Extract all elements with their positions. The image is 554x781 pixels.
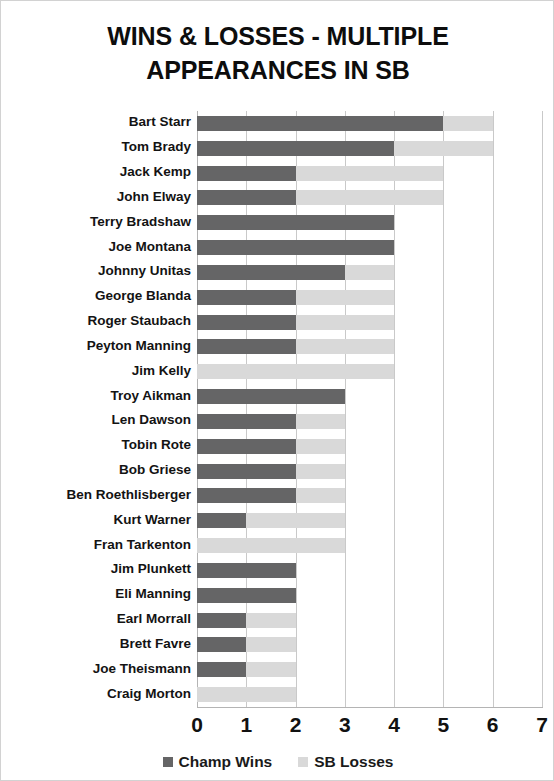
- bar-row[interactable]: [197, 513, 542, 528]
- category-label: Eli Manning: [7, 586, 197, 601]
- category-label: Tobin Rote: [7, 437, 197, 452]
- bar-segment-champ-wins[interactable]: [197, 315, 296, 330]
- x-tick-label: 6: [473, 713, 513, 737]
- bar-row[interactable]: [197, 265, 542, 280]
- bar-row[interactable]: [197, 116, 542, 131]
- bar-row[interactable]: [197, 166, 542, 181]
- bar-segment-champ-wins[interactable]: [197, 166, 296, 181]
- bar-segment-champ-wins[interactable]: [197, 116, 443, 131]
- bar-segment-sb-losses[interactable]: [246, 613, 295, 628]
- bar-segment-champ-wins[interactable]: [197, 265, 345, 280]
- x-tick-label: 1: [226, 713, 266, 737]
- bar-row[interactable]: [197, 414, 542, 429]
- bar-segment-sb-losses[interactable]: [296, 290, 395, 305]
- category-label: John Elway: [7, 189, 197, 204]
- category-label: Jim Kelly: [7, 363, 197, 378]
- bar-segment-sb-losses[interactable]: [345, 265, 394, 280]
- bar-segment-champ-wins[interactable]: [197, 141, 394, 156]
- category-label: Craig Morton: [7, 686, 197, 701]
- category-label: Peyton Manning: [7, 338, 197, 353]
- bar-row[interactable]: [197, 215, 542, 230]
- bar-segment-champ-wins[interactable]: [197, 613, 246, 628]
- bar-segment-sb-losses[interactable]: [296, 439, 345, 454]
- x-tick-label: 4: [374, 713, 414, 737]
- bar-row[interactable]: [197, 315, 542, 330]
- bar-row[interactable]: [197, 588, 542, 603]
- bar-segment-sb-losses[interactable]: [246, 513, 345, 528]
- bar-segment-champ-wins[interactable]: [197, 588, 296, 603]
- bar-segment-champ-wins[interactable]: [197, 439, 296, 454]
- bar-segment-sb-losses[interactable]: [246, 662, 295, 677]
- bar-segment-champ-wins[interactable]: [197, 414, 296, 429]
- chart-legend: Champ WinsSB Losses: [1, 753, 554, 771]
- x-tick-label: 0: [177, 713, 217, 737]
- category-label: Joe Montana: [7, 239, 197, 254]
- bar-row[interactable]: [197, 439, 542, 454]
- category-label: Brett Favre: [7, 636, 197, 651]
- legend-swatch-icon: [163, 757, 173, 767]
- category-label: Fran Tarkenton: [7, 537, 197, 552]
- bar-segment-sb-losses[interactable]: [246, 637, 295, 652]
- bar-row[interactable]: [197, 464, 542, 479]
- bar-row[interactable]: [197, 637, 542, 652]
- bar-segment-champ-wins[interactable]: [197, 339, 296, 354]
- gridline-7: [542, 111, 543, 707]
- bar-segment-sb-losses[interactable]: [394, 141, 493, 156]
- bar-row[interactable]: [197, 488, 542, 503]
- bar-segment-sb-losses[interactable]: [296, 166, 444, 181]
- bar-segment-sb-losses[interactable]: [296, 414, 345, 429]
- category-label: Kurt Warner: [7, 512, 197, 527]
- bar-segment-champ-wins[interactable]: [197, 513, 246, 528]
- bar-segment-sb-losses[interactable]: [443, 116, 492, 131]
- bar-row[interactable]: [197, 662, 542, 677]
- x-axis-line: [197, 707, 543, 708]
- plot-area: [197, 111, 542, 707]
- bar-segment-champ-wins[interactable]: [197, 464, 296, 479]
- legend-label: Champ Wins: [179, 753, 273, 771]
- bar-row[interactable]: [197, 364, 542, 379]
- bar-row[interactable]: [197, 389, 542, 404]
- bar-segment-sb-losses[interactable]: [296, 488, 345, 503]
- bar-segment-champ-wins[interactable]: [197, 563, 296, 578]
- bar-segment-champ-wins[interactable]: [197, 240, 394, 255]
- bar-segment-champ-wins[interactable]: [197, 389, 345, 404]
- bar-segment-sb-losses[interactable]: [296, 190, 444, 205]
- x-axis-tick-labels: 01234567: [1, 713, 554, 747]
- category-label: Bob Griese: [7, 462, 197, 477]
- bar-row[interactable]: [197, 339, 542, 354]
- bar-segment-champ-wins[interactable]: [197, 488, 296, 503]
- bar-row[interactable]: [197, 290, 542, 305]
- category-label: Jack Kemp: [7, 164, 197, 179]
- category-label: George Blanda: [7, 288, 197, 303]
- x-tick-label: 7: [522, 713, 554, 737]
- bar-segment-sb-losses[interactable]: [197, 538, 345, 553]
- bar-segment-sb-losses[interactable]: [296, 464, 345, 479]
- category-axis: Bart StarrTom BradyJack KempJohn ElwayTe…: [1, 111, 197, 707]
- chart-title-line-2: APPEARANCES IN SB: [31, 53, 525, 87]
- bar-segment-sb-losses[interactable]: [197, 364, 394, 379]
- category-label: Bart Starr: [7, 114, 197, 129]
- bar-row[interactable]: [197, 687, 542, 702]
- bar-segment-sb-losses[interactable]: [296, 315, 395, 330]
- chart-title-line-1: WINS & LOSSES - MULTIPLE: [31, 19, 525, 53]
- bar-segment-champ-wins[interactable]: [197, 290, 296, 305]
- legend-swatch-icon: [298, 757, 308, 767]
- bar-segment-sb-losses[interactable]: [296, 339, 395, 354]
- bar-segment-champ-wins[interactable]: [197, 190, 296, 205]
- bar-row[interactable]: [197, 141, 542, 156]
- bar-segment-champ-wins[interactable]: [197, 662, 246, 677]
- legend-item[interactable]: SB Losses: [298, 753, 393, 771]
- category-label: Troy Aikman: [7, 388, 197, 403]
- category-label: Roger Staubach: [7, 313, 197, 328]
- legend-item[interactable]: Champ Wins: [163, 753, 273, 771]
- bar-row[interactable]: [197, 613, 542, 628]
- category-label: Jim Plunkett: [7, 561, 197, 576]
- bar-row[interactable]: [197, 190, 542, 205]
- bar-row[interactable]: [197, 538, 542, 553]
- bar-segment-champ-wins[interactable]: [197, 215, 394, 230]
- bar-row[interactable]: [197, 240, 542, 255]
- bar-segment-champ-wins[interactable]: [197, 637, 246, 652]
- x-tick-label: 5: [423, 713, 463, 737]
- bar-row[interactable]: [197, 563, 542, 578]
- bar-segment-sb-losses[interactable]: [197, 687, 296, 702]
